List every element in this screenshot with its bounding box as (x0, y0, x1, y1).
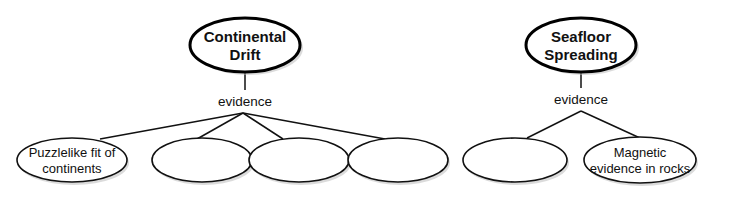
child-ellipse-blank (348, 138, 448, 182)
main-concept-ellipse (190, 18, 300, 72)
edge-to-child-1 (527, 111, 581, 138)
child-text-line2: evidence in rocks (590, 161, 691, 176)
child-node-2 (152, 138, 254, 185)
child-ellipse-blank (249, 138, 349, 182)
child-ellipse-blank (463, 138, 567, 182)
child-ellipse (584, 137, 696, 183)
edge-to-child-2 (581, 111, 640, 138)
child-node-3 (249, 138, 351, 185)
concept-map-continental-drift: Continental Drift evidence Puzzlelike fi… (17, 18, 450, 185)
child-node-2: Magnetic evidence in rocks (584, 137, 698, 186)
main-concept-line1: Seafloor (551, 28, 611, 45)
main-concept-line2: Spreading (544, 46, 617, 63)
child-node-1 (463, 138, 569, 185)
child-text-line1: Magnetic (614, 145, 667, 160)
link-label-evidence: evidence (218, 94, 272, 109)
main-concept-ellipse (526, 18, 636, 72)
concept-map-diagram: Continental Drift evidence Puzzlelike fi… (0, 0, 732, 200)
concept-map-seafloor-spreading: Seafloor Spreading evidence Magnetic evi… (463, 18, 698, 186)
child-text-line1: Puzzlelike fit of (29, 145, 116, 160)
child-node-4 (348, 138, 450, 185)
main-concept-line2: Drift (230, 46, 261, 63)
link-label-evidence: evidence (554, 92, 608, 107)
child-ellipse-blank (152, 138, 252, 182)
edge-to-child-1 (100, 113, 243, 139)
main-concept-line1: Continental (204, 28, 287, 45)
child-text-line2: continents (42, 161, 102, 176)
child-node-1: Puzzlelike fit of continents (17, 138, 129, 185)
